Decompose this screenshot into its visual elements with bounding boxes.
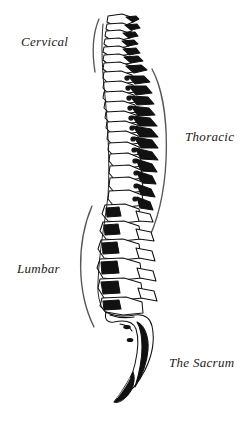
vertebra-t10-foramen <box>134 171 138 175</box>
region-label-lumbar: Lumbar <box>17 261 60 276</box>
vertebra-l1-wedge <box>106 207 121 217</box>
vertebra-t12-foramen <box>133 197 137 201</box>
spine-anatomy-figure: Cervical Thoracic Lumbar The Sacrum <box>0 0 251 428</box>
vertebra-l5-wedge <box>101 281 120 294</box>
sacral-foramen-1 <box>124 325 130 328</box>
sacral-foramen-2 <box>127 339 133 342</box>
vertebra-t3-foramen <box>127 96 131 100</box>
vertebra-t4-foramen <box>128 106 132 110</box>
vertebra-t5-foramen <box>129 116 133 120</box>
region-label-sacrum: The Sacrum <box>169 355 234 370</box>
vertebra-l5-s1-wedge <box>103 300 121 310</box>
thoracic-vertebrae <box>103 71 158 210</box>
vertebra-l4-wedge <box>101 261 119 274</box>
vertebra-t6-foramen <box>130 126 134 130</box>
vertebra-t7-foramen <box>131 137 135 141</box>
region-label-cervical: Cervical <box>21 34 68 49</box>
vertebra-t2-foramen <box>126 86 130 90</box>
vertebra-t8-foramen <box>132 148 136 152</box>
vertebra-t9-foramen <box>133 159 137 163</box>
vertebra-t1-foramen <box>125 76 129 80</box>
vertebra-l3-wedge <box>102 242 119 254</box>
vertebra-l2-wedge <box>104 224 120 235</box>
region-label-thoracic: Thoracic <box>185 129 234 144</box>
vertebra-t11-foramen <box>134 184 138 188</box>
